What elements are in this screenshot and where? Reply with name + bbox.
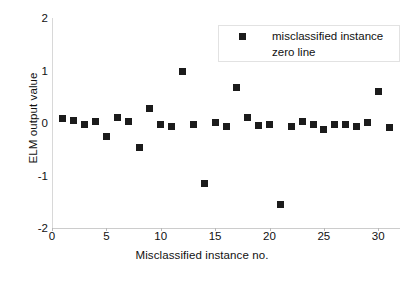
y-tick-label: 2 [26, 12, 48, 24]
data-point [320, 126, 327, 133]
x-tick-label: 15 [203, 230, 227, 242]
data-point [103, 133, 110, 140]
data-point [288, 123, 295, 130]
data-point [233, 84, 240, 91]
x-tick-label: 10 [149, 230, 173, 242]
legend-item-zero-line: zero line [219, 44, 401, 61]
data-point [92, 118, 99, 125]
data-point [59, 115, 66, 122]
data-point [136, 144, 143, 151]
data-point [299, 118, 306, 125]
data-point [364, 119, 371, 126]
x-tick-mark [378, 228, 379, 231]
data-point [331, 121, 338, 128]
elm-output-scatter-chart: ELM output value 210-1-2 Misclassified i… [0, 0, 415, 281]
data-point [114, 114, 121, 121]
x-tick-label: 20 [258, 230, 282, 242]
data-point [223, 123, 230, 130]
data-point [70, 117, 77, 124]
x-tick-mark [324, 228, 325, 231]
data-point [353, 123, 360, 130]
data-point [310, 121, 317, 128]
data-point [342, 121, 349, 128]
data-point [277, 201, 284, 208]
data-point [157, 121, 164, 128]
square-marker-icon [239, 33, 246, 40]
legend: misclassified instance zero line [218, 25, 400, 62]
data-point [146, 105, 153, 112]
data-point [212, 119, 219, 126]
x-axis-line [52, 228, 400, 229]
y-tick-label: 0 [26, 117, 48, 129]
data-point [244, 114, 251, 121]
x-tick-mark [270, 228, 271, 231]
legend-label: zero line [272, 45, 315, 59]
x-tick-label: 0 [40, 230, 64, 242]
legend-item-misclassified-instance: misclassified instance [219, 28, 401, 45]
x-axis-title: Misclassified instance no. [52, 249, 352, 261]
x-tick-mark [161, 228, 162, 231]
x-tick-label: 5 [94, 230, 118, 242]
data-point [81, 121, 88, 128]
x-tick-mark [52, 228, 53, 231]
data-point [386, 124, 393, 131]
data-point [375, 88, 382, 95]
x-tick-mark [106, 228, 107, 231]
data-point [266, 121, 273, 128]
x-tick-mark [215, 228, 216, 231]
x-tick-label: 30 [366, 230, 390, 242]
data-point [201, 180, 208, 187]
data-point [125, 118, 132, 125]
legend-label: misclassified instance [272, 29, 383, 43]
data-point [179, 68, 186, 75]
y-tick-label: -1 [26, 170, 48, 182]
data-point [190, 121, 197, 128]
x-tick-label: 25 [312, 230, 336, 242]
data-point [168, 123, 175, 130]
y-tick-label: 1 [26, 65, 48, 77]
data-point [255, 122, 262, 129]
